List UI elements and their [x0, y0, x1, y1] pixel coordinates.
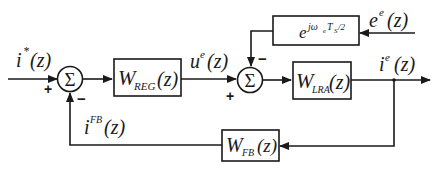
- svg-text:e: e: [385, 51, 390, 63]
- svg-text:LRA: LRA: [311, 84, 331, 95]
- svg-text:Σ: Σ: [64, 69, 75, 90]
- svg-text:u: u: [190, 50, 200, 72]
- svg-text:(z): (z): [104, 116, 125, 139]
- svg-text:(z): (z): [157, 68, 178, 91]
- svg-text:(z): (z): [387, 9, 408, 32]
- svg-text:e: e: [369, 9, 378, 31]
- output-label-current: i e (z): [379, 51, 415, 76]
- sum2-minus-sign: −: [258, 50, 267, 67]
- svg-text:(z): (z): [394, 53, 415, 76]
- svg-text:i: i: [16, 49, 22, 71]
- block-diagram: i * (z) Σ + − W REG (z) u e (z) Σ + − W …: [0, 0, 442, 169]
- signal-label-feedback: i FB (z): [84, 114, 125, 139]
- svg-text:e: e: [299, 23, 307, 42]
- svg-text:Σ: Σ: [244, 70, 255, 91]
- input-label-reference: i * (z): [16, 44, 51, 72]
- svg-text:(z): (z): [207, 50, 228, 73]
- block-regulator: W REG (z): [114, 59, 181, 96]
- summing-junction-2: Σ: [238, 68, 263, 93]
- sum2-plus-sign: +: [226, 88, 234, 104]
- svg-text:i: i: [379, 53, 385, 75]
- svg-text:FB: FB: [89, 114, 102, 125]
- sum1-plus-sign: +: [44, 81, 52, 97]
- svg-text:(z): (z): [30, 49, 51, 72]
- svg-text:e: e: [379, 6, 384, 18]
- block-delay: e jω e T S /2: [273, 16, 359, 45]
- svg-text:jω: jω: [306, 21, 318, 32]
- svg-text:FB: FB: [241, 147, 254, 158]
- summing-junction-1: Σ: [58, 67, 83, 92]
- svg-text:/2: /2: [337, 22, 346, 32]
- block-plant: W LRA (z): [293, 62, 351, 99]
- svg-text:(z): (z): [329, 71, 350, 94]
- svg-text:REG: REG: [133, 80, 155, 92]
- signal-label-control: u e (z): [190, 48, 228, 73]
- sum1-minus-sign: −: [77, 90, 86, 107]
- input-label-disturbance: e e (z): [369, 6, 408, 32]
- svg-text:e: e: [200, 48, 205, 60]
- svg-text:i: i: [84, 116, 90, 138]
- block-feedback: W FB (z): [222, 130, 279, 161]
- svg-text:(z): (z): [257, 135, 277, 157]
- svg-text:e: e: [323, 27, 326, 35]
- svg-text:*: *: [23, 44, 29, 58]
